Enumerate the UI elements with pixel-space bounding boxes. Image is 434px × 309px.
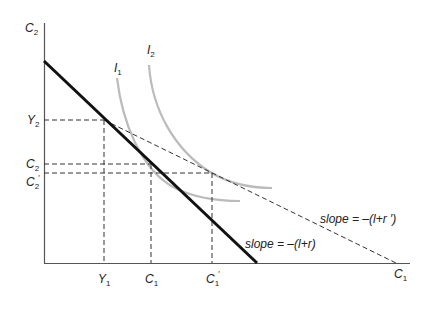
slope-label-new: slope = –(l+r ′) [320, 212, 396, 226]
y-axis-label: C2 [25, 21, 39, 37]
budget-constraint-diagram: C2 C1 Y2 C2 C2′ Y1 C1 C1′ I1 I2 [0, 0, 434, 309]
indifference-curve-i1 [117, 78, 240, 201]
y-tick-c2-prime: C2′ [26, 173, 40, 191]
curve-label-i1: I1 [114, 61, 122, 77]
indifference-curve-i2 [149, 65, 272, 188]
curve-label-i2: I2 [147, 43, 155, 59]
y-tick-y2: Y2 [27, 113, 40, 129]
x-tick-c1: C1 [145, 272, 159, 288]
x-tick-c1-prime: C1′ [206, 269, 220, 288]
y-tick-c2: C2 [26, 157, 40, 173]
x-tick-y1: Y1 [98, 272, 111, 288]
slope-label-original: slope = –(l+r) [245, 237, 316, 251]
x-axis-label: C1 [394, 267, 408, 283]
